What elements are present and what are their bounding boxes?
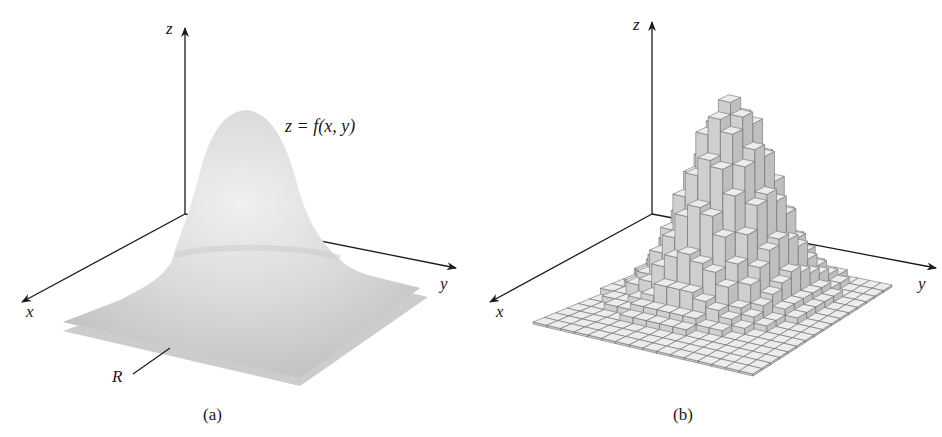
x-axis-label: x <box>26 303 34 320</box>
region-leader <box>133 348 170 374</box>
panel-a-surface: z x y z = f(x, y) R (a) <box>0 0 470 437</box>
z-axis-label: z <box>166 20 173 37</box>
z-axis-label: z <box>633 16 640 33</box>
surface-label: z = f(x, y) <box>285 117 355 135</box>
panel-b-columns: z x y (b) <box>470 0 942 437</box>
x-axis-label: x <box>496 303 504 320</box>
riemann-columns <box>533 95 892 376</box>
column-plot <box>470 0 942 437</box>
caption-a: (a) <box>203 406 222 423</box>
caption-b: (b) <box>673 406 693 423</box>
y-axis-label: y <box>440 275 448 292</box>
y-axis-label: y <box>918 275 926 292</box>
surface-plot <box>0 0 470 437</box>
region-label: R <box>112 368 122 385</box>
